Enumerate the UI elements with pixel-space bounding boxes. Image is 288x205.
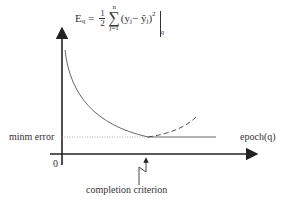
- min-error-label: minm error: [9, 131, 54, 142]
- sum-lower-limit: j=1: [109, 25, 118, 32]
- fraction-numerator: 1: [100, 9, 105, 18]
- formula-lhs: E: [75, 12, 82, 24]
- sigma-icon: ∑: [108, 11, 119, 25]
- origin-label: 0: [53, 158, 58, 169]
- eval-sub: q: [161, 28, 165, 36]
- term-sub2: j: [146, 17, 148, 25]
- error-curve: [65, 50, 148, 137]
- term-sub1: j: [130, 17, 132, 25]
- formula-minus: − ŷ: [132, 12, 146, 24]
- formula-equals: =: [88, 12, 94, 24]
- overfit-dashed-curve: [148, 117, 196, 137]
- formula-summation: n ∑ j=1: [108, 4, 119, 32]
- formula-lhs-sub: q: [82, 17, 86, 25]
- formula-power: 2: [152, 10, 156, 18]
- completion-arrow: [139, 160, 146, 185]
- fraction-denominator: 2: [100, 19, 105, 28]
- formula-term: (y: [121, 12, 130, 24]
- completion-criterion-label: completion criterion: [86, 184, 167, 195]
- formula-fraction: 1 2: [99, 9, 105, 28]
- error-formula: Eq = 1 2 n ∑ j=1 (yj − ŷj)2 q: [75, 4, 164, 32]
- x-axis-label: epoch(q): [240, 131, 276, 142]
